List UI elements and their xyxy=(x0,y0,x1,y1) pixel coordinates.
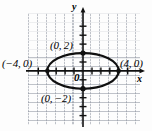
origin-label: 0 xyxy=(74,72,80,83)
point-label-bottom-vertex: (0, −2) xyxy=(41,93,71,104)
point-label-left-vertex: (−4, 0) xyxy=(2,58,32,69)
point-label-top-vertex: (0, 2) xyxy=(50,40,73,51)
vertex-dot-right xyxy=(116,69,121,74)
x-axis-label: x xyxy=(137,74,142,84)
y-axis-label: y xyxy=(72,2,76,12)
y-axis xyxy=(80,7,87,127)
vertex-dot-bottom xyxy=(80,86,85,91)
vertex-dot-top xyxy=(80,51,85,56)
point-label-right-vertex: (4, 0) xyxy=(120,58,143,69)
vertex-dot-left xyxy=(45,69,50,74)
ellipse-graph-figure: (−4, 0) (4, 0) (0, 2) (0, −2) 0 y x xyxy=(0,0,152,131)
